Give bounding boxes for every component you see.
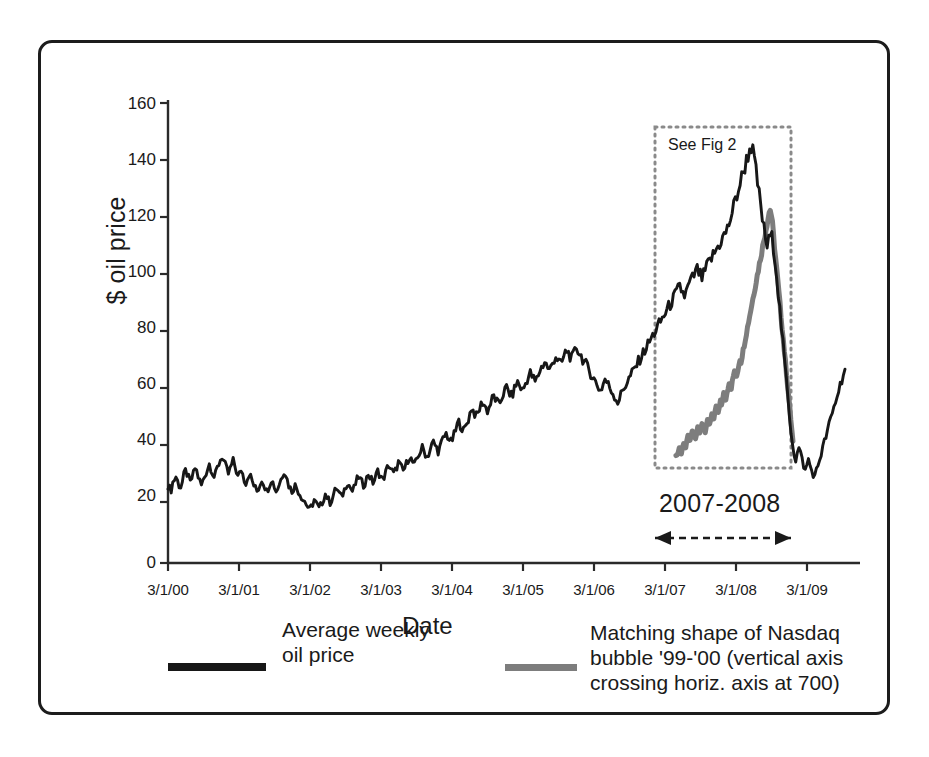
oil-price-series-line (168, 145, 845, 508)
chart-canvas: $ oil price Date 160 140 120 100 80 60 4… (0, 0, 929, 757)
see-fig-2-label: See Fig 2 (668, 136, 736, 154)
legend-swatch-nasdaq (505, 664, 577, 671)
nasdaq-series-line (676, 210, 793, 455)
legend-label-oil-price: Average weekly oil price (282, 617, 432, 667)
legend-label-nasdaq: Matching shape of Nasdaq bubble '99-'00 … (590, 620, 855, 695)
range-period-label: 2007-2008 (659, 489, 780, 518)
legend-swatch-oil-price (168, 663, 266, 671)
range-arrow (655, 531, 791, 545)
see-fig-2-box (655, 127, 791, 468)
